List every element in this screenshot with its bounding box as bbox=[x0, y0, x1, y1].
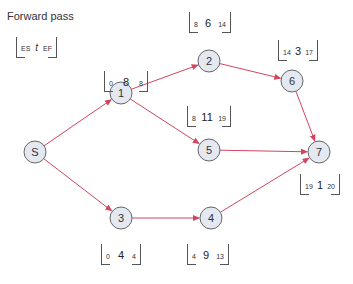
box-node-7: 19120 bbox=[300, 174, 340, 196]
edge-5-7 bbox=[220, 150, 307, 152]
svg-text:2: 2 bbox=[206, 55, 212, 67]
edge-S-3 bbox=[44, 159, 112, 211]
nodes: S1234567 bbox=[24, 50, 330, 229]
edge-2-6 bbox=[220, 64, 281, 79]
edge-4-7 bbox=[220, 158, 308, 212]
edge-S-1 bbox=[44, 100, 111, 146]
node-5: 5 bbox=[198, 139, 220, 161]
node-7: 7 bbox=[308, 141, 330, 163]
node-S: S bbox=[24, 141, 46, 163]
svg-text:7: 7 bbox=[316, 146, 322, 158]
box-node-4: 4913 bbox=[187, 244, 229, 266]
node-2: 2 bbox=[198, 50, 220, 72]
box-node-1: 088 bbox=[104, 71, 148, 93]
box-node-6: 14317 bbox=[278, 40, 318, 62]
svg-text:3: 3 bbox=[118, 212, 124, 224]
node-6: 6 bbox=[281, 70, 303, 92]
box-node-5: 81119 bbox=[187, 106, 231, 128]
svg-text:4: 4 bbox=[208, 212, 214, 224]
svg-text:5: 5 bbox=[206, 144, 212, 156]
box-node-3: 044 bbox=[101, 244, 141, 266]
edges bbox=[44, 64, 315, 218]
node-4: 4 bbox=[200, 207, 222, 229]
node-3: 3 bbox=[110, 207, 132, 229]
svg-text:6: 6 bbox=[289, 75, 295, 87]
edge-6-7 bbox=[296, 91, 315, 141]
svg-text:S: S bbox=[31, 146, 38, 158]
box-node-2: 8614 bbox=[189, 12, 231, 34]
